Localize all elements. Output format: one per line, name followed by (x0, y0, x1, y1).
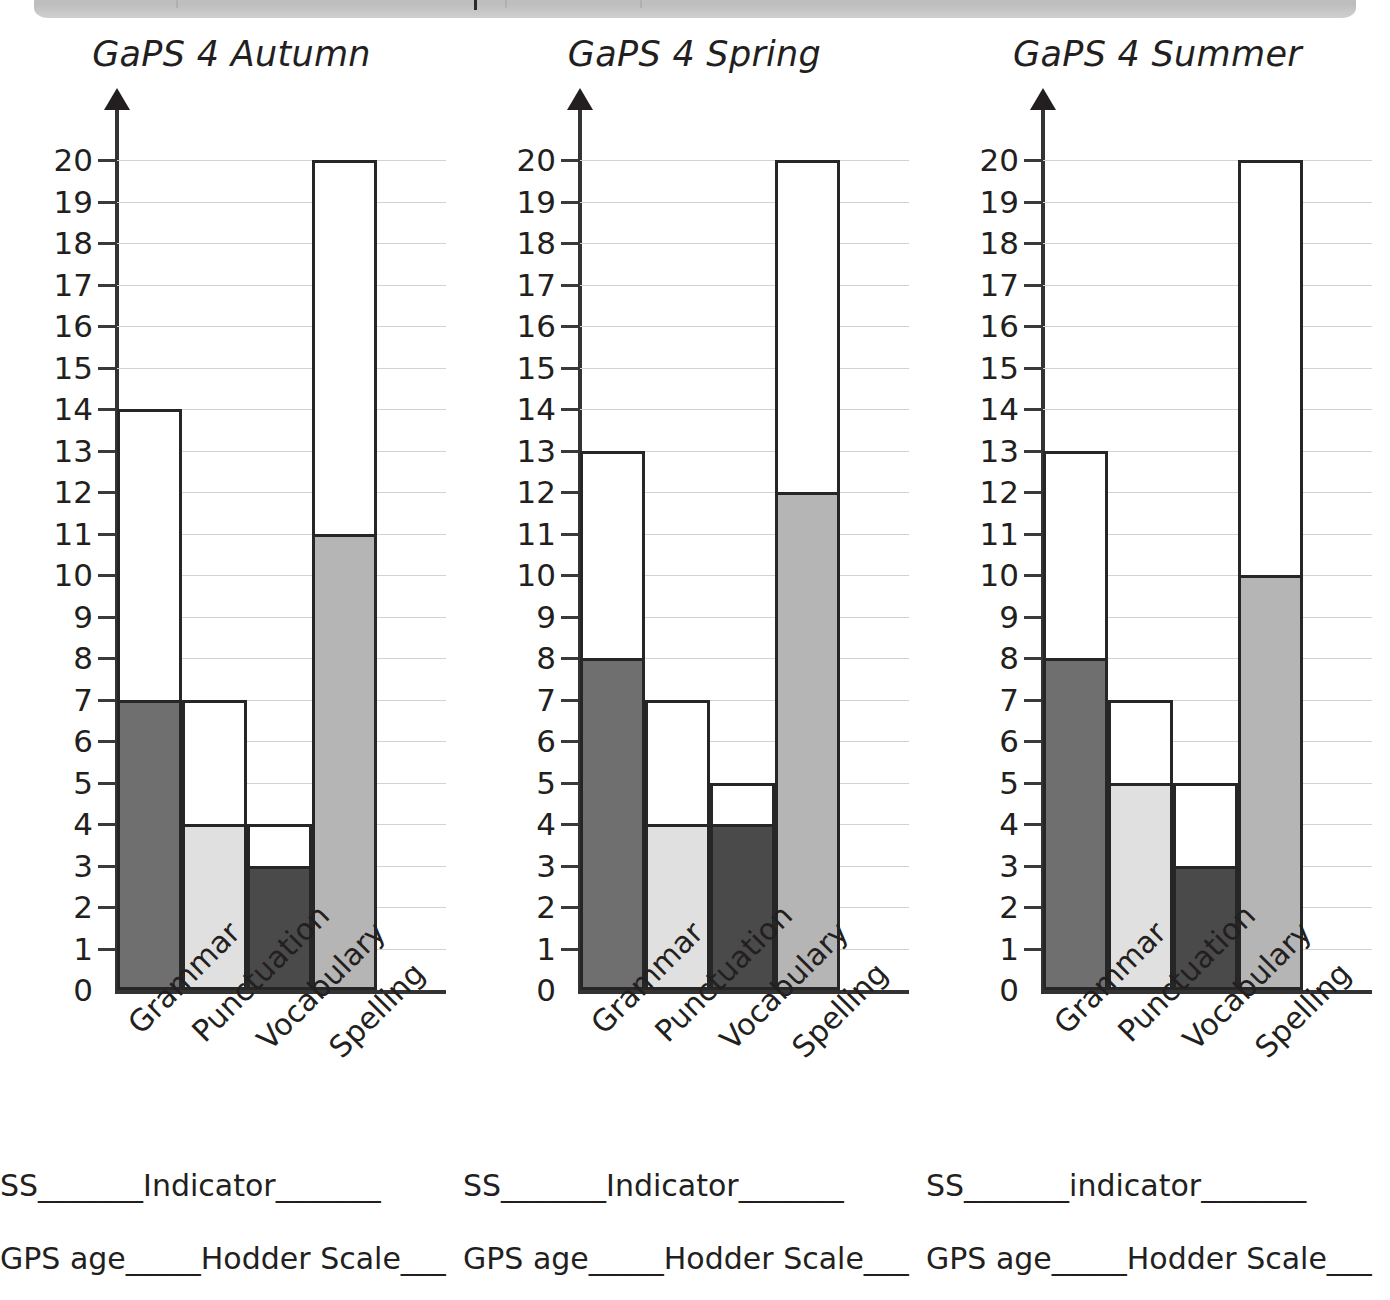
y-axis-tick (1024, 450, 1041, 453)
y-axis-arrow-icon (567, 88, 593, 110)
y-axis-tick (1024, 367, 1041, 370)
y-axis-tick (98, 325, 115, 328)
y-axis-tick-label: 18 (54, 225, 93, 261)
y-axis-tick (561, 284, 578, 287)
y-axis-tick (561, 201, 578, 204)
y-axis-tick (98, 616, 115, 619)
y-axis-tick-label: 5 (536, 765, 556, 801)
y-axis-tick (98, 657, 115, 660)
y-axis-tick-label: 17 (517, 267, 556, 303)
bar-slot (247, 160, 312, 990)
panel-title: GaPS 4 Spring (463, 26, 926, 82)
y-axis-tick-label: 19 (54, 184, 93, 220)
y-axis-tick (561, 533, 578, 536)
y-axis-tick (98, 533, 115, 536)
y-axis-tick (1024, 865, 1041, 868)
y-axis-tick-label: 17 (980, 267, 1019, 303)
y-axis-arrow-icon (104, 88, 130, 110)
bar-fill (117, 700, 182, 991)
y-axis-tick (1024, 823, 1041, 826)
y-axis-tick (561, 657, 578, 660)
y-axis-tick-label: 11 (517, 516, 556, 552)
y-axis-tick (98, 242, 115, 245)
y-axis-tick-label: 14 (54, 391, 93, 427)
y-axis-tick (561, 408, 578, 411)
bar-fill (1043, 658, 1108, 990)
y-axis-tick-label: 3 (536, 848, 556, 884)
y-axis-tick (98, 201, 115, 204)
x-axis-category-labels: GrammarPunctuationVocabularySpelling (580, 1010, 920, 1160)
y-axis-tick-label: 16 (517, 308, 556, 344)
y-axis-tick-label: 6 (536, 723, 556, 759)
bar-slot (710, 160, 775, 990)
banner-tick-1 (176, 0, 178, 8)
y-axis-tick-label: 15 (517, 350, 556, 386)
bar-fill (580, 658, 645, 990)
y-axis-tick-label: 0 (73, 972, 93, 1008)
y-axis-tick-label: 9 (73, 599, 93, 635)
y-axis-tick-label: 2 (536, 889, 556, 925)
y-axis-tick-label: 13 (980, 433, 1019, 469)
bar-slot (117, 160, 182, 990)
y-axis-tick-label: 4 (73, 806, 93, 842)
chart-panels: GaPS 4 Autumn201918171615141312111098765… (0, 26, 1390, 1002)
footer-ss-indicator-line: SS_______Indicator_______ (0, 1168, 381, 1203)
y-axis-tick (98, 699, 115, 702)
y-axis-tick-label: 4 (999, 806, 1019, 842)
bar-slot (580, 160, 645, 990)
banner-tick-2 (505, 0, 507, 8)
y-axis-tick-label: 12 (980, 474, 1019, 510)
bar-slot (645, 160, 710, 990)
y-axis-tick (1024, 657, 1041, 660)
y-axis-tick-label: 7 (999, 682, 1019, 718)
bar-group (1043, 160, 1303, 990)
y-axis-tick-label: 11 (54, 516, 93, 552)
bar-slot (312, 160, 377, 990)
y-axis-tick (1024, 740, 1041, 743)
bar-slot (1238, 160, 1303, 990)
y-axis-tick-label: 1 (536, 931, 556, 967)
footer-ss-indicator-line: SS_______indicator_______ (926, 1168, 1306, 1203)
y-axis-tick (561, 325, 578, 328)
y-axis-tick (98, 740, 115, 743)
y-axis-tick (1024, 284, 1041, 287)
x-axis-category-labels: GrammarPunctuationVocabularySpelling (1043, 1010, 1383, 1160)
panel-title: GaPS 4 Summer (926, 26, 1389, 82)
footer-gps-age-line: GPS age_____Hodder Scale___ (0, 1241, 446, 1276)
bar-group (580, 160, 840, 990)
y-axis-tick-label: 5 (999, 765, 1019, 801)
y-axis-tick (561, 242, 578, 245)
y-axis-tick-label: 14 (980, 391, 1019, 427)
y-axis-tick (98, 823, 115, 826)
y-axis-tick-label: 4 (536, 806, 556, 842)
y-axis-tick (1024, 408, 1041, 411)
y-axis-tick (98, 367, 115, 370)
y-axis-tick-label: 3 (999, 848, 1019, 884)
footer-gps-age-line: GPS age_____Hodder Scale___ (463, 1241, 909, 1276)
y-axis-arrow-icon (1030, 88, 1056, 110)
y-axis-tick (561, 906, 578, 909)
y-axis-tick-label: 18 (980, 225, 1019, 261)
y-axis-tick (561, 159, 578, 162)
y-axis-tick-label: 9 (536, 599, 556, 635)
y-axis-tick (561, 616, 578, 619)
banner-separator (474, 0, 477, 10)
y-axis-tick-label: 1 (73, 931, 93, 967)
y-axis-tick-label: 12 (517, 474, 556, 510)
y-axis-tick (98, 948, 115, 951)
plot-area: 20191817161514131211109876543210GrammarP… (509, 82, 909, 1002)
y-axis-tick-label: 18 (517, 225, 556, 261)
worksheet-page: GaPS 4 Autumn201918171615141312111098765… (0, 0, 1390, 1300)
bar-slot (182, 160, 247, 990)
y-axis-tick (561, 574, 578, 577)
y-axis-tick (1024, 242, 1041, 245)
y-axis-tick-label: 15 (980, 350, 1019, 386)
y-axis-tick (1024, 948, 1041, 951)
y-axis-tick-label: 6 (73, 723, 93, 759)
y-axis-tick-label: 15 (54, 350, 93, 386)
y-axis-tick-label: 2 (73, 889, 93, 925)
y-axis-tick (1024, 491, 1041, 494)
y-axis-tick (561, 699, 578, 702)
y-axis-tick (561, 740, 578, 743)
y-axis-tick-label: 8 (536, 640, 556, 676)
